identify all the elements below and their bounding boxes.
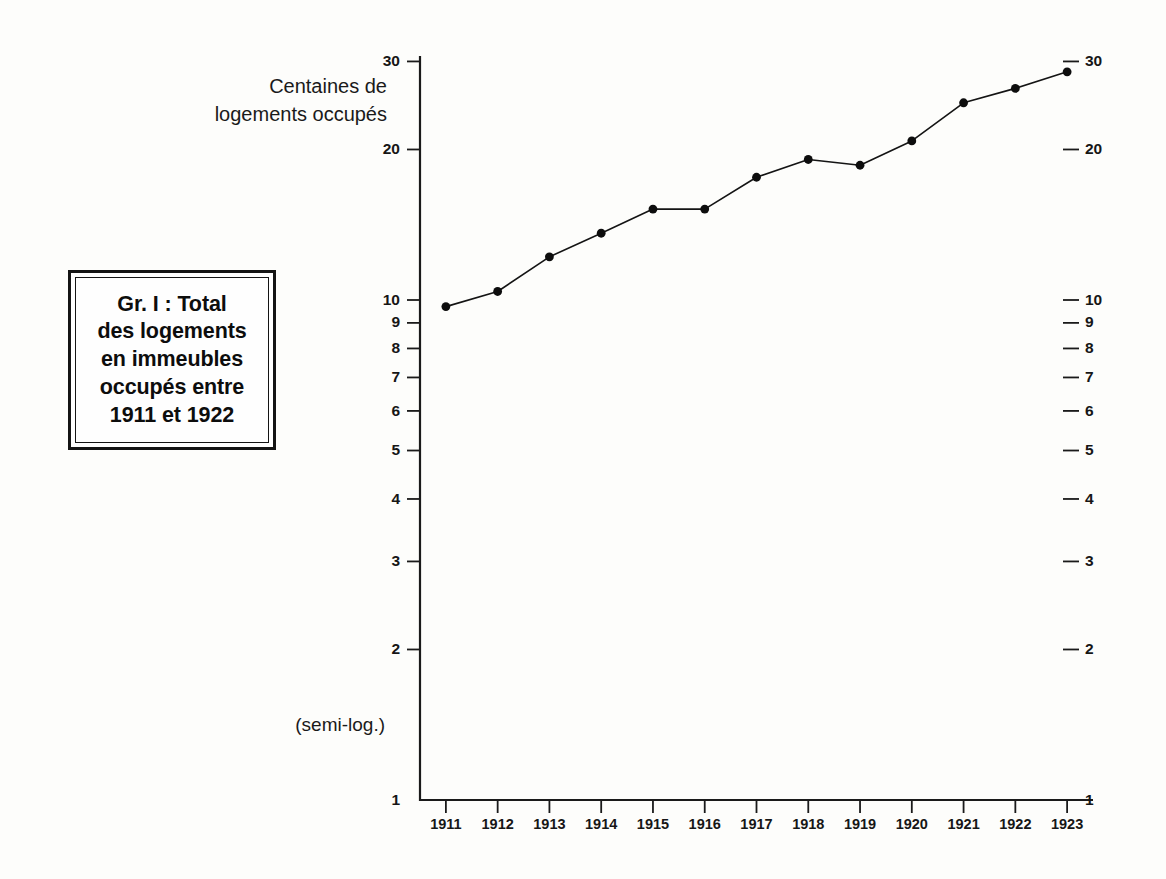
data-series-line	[446, 72, 1067, 307]
left-tick-label: 7	[391, 368, 400, 385]
right-tick-label: 10	[1085, 291, 1102, 308]
data-point-marker	[804, 155, 813, 164]
x-tick-label: 1913	[533, 816, 565, 832]
left-axis-ticks: 302010987654321	[383, 52, 420, 808]
right-tick-label: 4	[1085, 490, 1094, 507]
x-axis-ticks: 1911191219131914191519161917191819191920…	[430, 800, 1083, 832]
right-tick-label: 6	[1085, 402, 1094, 419]
right-tick-label: 9	[1085, 313, 1094, 330]
x-tick-label: 1915	[637, 816, 669, 832]
left-tick-label: 8	[391, 339, 400, 356]
data-point-markers	[441, 67, 1071, 311]
x-tick-label: 1914	[585, 816, 617, 832]
right-tick-label: 7	[1085, 368, 1094, 385]
left-tick-label: 2	[391, 640, 400, 657]
left-tick-label: 3	[391, 552, 400, 569]
data-point-marker	[545, 252, 554, 261]
right-axis-ticks: 302010987654321	[1063, 52, 1102, 808]
right-tick-label: 2	[1085, 640, 1094, 657]
data-point-marker	[441, 302, 450, 311]
left-tick-label: 4	[391, 490, 400, 507]
left-tick-label: 10	[383, 291, 400, 308]
x-tick-label: 1923	[1051, 816, 1083, 832]
right-tick-label: 30	[1085, 52, 1102, 69]
axis-spine	[420, 56, 1093, 800]
data-point-marker	[493, 287, 502, 296]
x-tick-label: 1916	[689, 816, 721, 832]
plot-svg: 302010987654321 302010987654321 19111912…	[0, 0, 1166, 879]
x-tick-label: 1922	[999, 816, 1031, 832]
x-tick-label: 1911	[430, 816, 461, 832]
data-point-marker	[959, 98, 968, 107]
data-series-group	[441, 67, 1071, 311]
data-point-marker	[597, 229, 606, 238]
left-tick-label: 1	[391, 791, 400, 808]
x-tick-label: 1912	[482, 816, 514, 832]
axes-group	[420, 56, 1093, 800]
x-tick-label: 1920	[896, 816, 928, 832]
right-tick-label: 20	[1085, 140, 1102, 157]
data-point-marker	[752, 173, 761, 182]
left-tick-label: 30	[383, 52, 400, 69]
data-point-marker	[649, 205, 658, 214]
left-tick-label: 6	[391, 402, 400, 419]
x-tick-label: 1921	[947, 816, 979, 832]
right-tick-label: 3	[1085, 552, 1094, 569]
right-tick-label: 5	[1085, 441, 1094, 458]
data-point-marker	[907, 137, 916, 146]
left-tick-label: 5	[391, 441, 400, 458]
x-tick-label: 1918	[792, 816, 824, 832]
data-point-marker	[700, 205, 709, 214]
right-tick-label: 1	[1085, 791, 1094, 808]
data-point-marker	[856, 161, 865, 170]
data-point-marker	[1011, 84, 1020, 93]
data-point-marker	[1063, 67, 1072, 76]
x-tick-label: 1917	[740, 816, 772, 832]
x-tick-label: 1919	[844, 816, 876, 832]
right-tick-label: 8	[1085, 339, 1094, 356]
left-tick-label: 9	[391, 313, 400, 330]
left-tick-label: 20	[383, 140, 400, 157]
chart-figure: Gr. I : Total des logements en immeubles…	[0, 0, 1166, 879]
